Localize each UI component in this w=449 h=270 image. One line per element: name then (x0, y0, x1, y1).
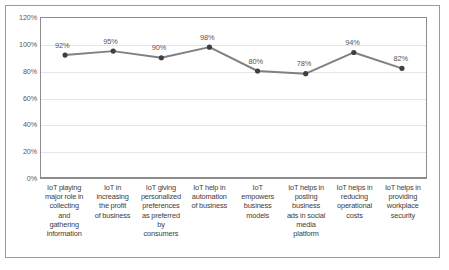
category-label-line: collecting (41, 201, 87, 210)
category-label-line: of business (186, 201, 232, 210)
category-label-cell: IoT givingpersonalizedpreferencesas pref… (137, 179, 185, 255)
category-label-line: operational (331, 201, 377, 210)
y-axis-tick-label: 120% (19, 13, 37, 22)
category-label-line: consumers (138, 229, 184, 238)
category-label-line: as preferred (138, 211, 184, 220)
category-label-line: IoT helps in (380, 183, 426, 192)
category-label-line: reducing (331, 192, 377, 201)
category-label-line: preferences (138, 201, 184, 210)
category-label-line: business (283, 201, 329, 210)
data-point-label: 94% (345, 38, 360, 47)
category-label-line: IoT giving (138, 183, 184, 192)
category-label-line: IoT (235, 183, 281, 192)
chart-container: 0%20%40%60%80%100%120% IoT playingmajor … (0, 0, 449, 270)
data-point-marker (62, 53, 67, 58)
category-label-cell: IoTempowersbusinessmodels (234, 179, 282, 255)
category-label-line: empowers (235, 192, 281, 201)
data-point-marker (399, 66, 404, 71)
category-label-line: security (380, 211, 426, 220)
category-label-line: media (283, 220, 329, 229)
data-point-label: 78% (297, 59, 312, 68)
category-label-cell: IoT helps inpostingbusinessads in social… (282, 179, 330, 255)
data-point-marker (255, 68, 260, 73)
y-axis-tick-label: 20% (23, 147, 37, 156)
y-axis-tick-label: 0% (27, 174, 37, 183)
category-label-line: of business (89, 211, 135, 220)
category-label-cell: IoT help inautomationof business (185, 179, 233, 255)
data-point-label: 82% (394, 54, 409, 63)
category-label-cell: IoT helps inprovidingworkplacesecurity (379, 179, 427, 255)
line-series-svg (41, 18, 426, 177)
category-label-cell: IoT inincreasingthe profitof business (88, 179, 136, 255)
category-label-line: posting (283, 192, 329, 201)
category-label-line: major role in (41, 192, 87, 201)
category-label-line: IoT in (89, 183, 135, 192)
category-label-line: information (41, 229, 87, 238)
data-point-label: 98% (200, 33, 215, 42)
category-label-line: gathering (41, 220, 87, 229)
category-label-table: IoT playingmajor role incollectingandgat… (40, 178, 427, 255)
category-label-line: business (235, 201, 281, 210)
category-label-line: personalized (138, 192, 184, 201)
plot-area (40, 17, 427, 178)
category-label-line: providing (380, 192, 426, 201)
category-label-line: automation (186, 192, 232, 201)
category-label-line: IoT help in (186, 183, 232, 192)
data-point-label: 90% (152, 43, 167, 52)
category-label-line: the profit (89, 201, 135, 210)
category-label-line: IoT playing (41, 183, 87, 192)
category-label-line: IoT helps in (283, 183, 329, 192)
category-label-line: workplace (380, 201, 426, 210)
category-label-line: and (41, 211, 87, 220)
category-label-cell: IoT helps inreducingoperationalcosts (330, 179, 378, 255)
category-label-cell: IoT playingmajor role incollectingandgat… (40, 179, 88, 255)
category-label-line: platform (283, 229, 329, 238)
y-axis-tick-label: 80% (23, 66, 37, 75)
y-axis: 0%20%40%60%80%100%120% (7, 17, 38, 178)
data-point-label: 92% (55, 41, 70, 50)
y-axis-tick-label: 40% (23, 120, 37, 129)
y-axis-tick-label: 100% (19, 39, 37, 48)
category-label-line: models (235, 211, 281, 220)
data-point-label: 95% (103, 37, 118, 46)
category-label-line: costs (331, 211, 377, 220)
data-point-label: 80% (248, 57, 263, 66)
data-point-marker (207, 45, 212, 50)
data-point-marker (303, 71, 308, 76)
data-point-marker (159, 55, 164, 60)
category-label-line: ads in social (283, 211, 329, 220)
category-label-line: by (138, 220, 184, 229)
y-axis-tick-label: 60% (23, 93, 37, 102)
category-label-line: IoT helps in (331, 183, 377, 192)
data-point-marker (351, 50, 356, 55)
category-label-line: increasing (89, 192, 135, 201)
data-point-marker (111, 49, 116, 54)
